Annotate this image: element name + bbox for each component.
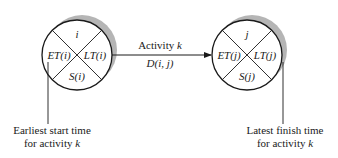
node-i-earliest-time: ET(i) [46, 49, 71, 62]
earliest-start-line2: for activity k [24, 137, 81, 149]
latest-finish-line2: for activity k [257, 137, 314, 149]
node-i-slack: S(i) [69, 70, 85, 83]
node-j-latest-time: LT(j) [253, 49, 277, 62]
node-j-slack: S(j) [239, 70, 255, 83]
node-i: i ET(i) LT(i) S(i) [42, 15, 117, 90]
node-i-label: i [75, 28, 78, 40]
earliest-start-line1: Earliest start time [13, 124, 91, 136]
activity-label: Activity k [138, 39, 183, 51]
latest-finish-line1: Latest finish time [247, 124, 324, 136]
activity-edge: Activity k D(i, j) [112, 39, 211, 70]
node-j-earliest-time: ET(j) [216, 49, 241, 62]
node-i-latest-time: LT(i) [83, 49, 107, 62]
node-j: j ET(j) LT(j) S(j) [212, 15, 287, 90]
activity-network-diagram: i ET(i) LT(i) S(i) j ET(j) LT(j) S(j) Ac… [0, 0, 338, 158]
activity-duration-label: D(i, j) [146, 57, 174, 70]
